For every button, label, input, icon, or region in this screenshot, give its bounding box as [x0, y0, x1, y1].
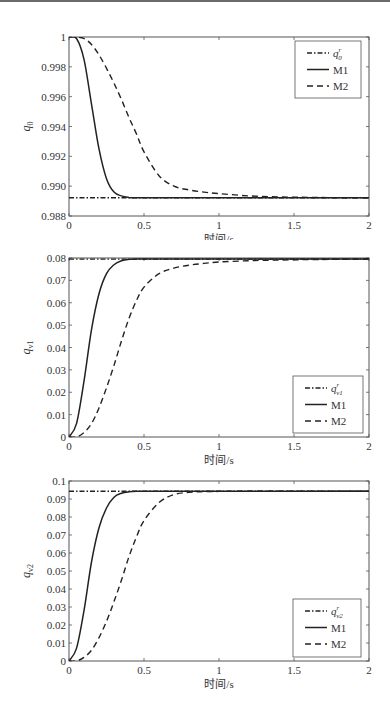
chart-svg: 00.511.5200.010.020.030.040.050.060.070.… [0, 240, 390, 470]
y-tick-label: 0 [61, 655, 67, 667]
y-tick-label: 0.08 [47, 252, 67, 264]
x-tick-label: 1 [216, 440, 222, 452]
x-axis-label: 时间/s [204, 678, 233, 690]
x-tick-label: 0.5 [137, 440, 151, 452]
legend: qrv1M1M2 [293, 376, 363, 433]
legend-label: M2 [333, 80, 348, 92]
y-tick-label: 0.08 [47, 511, 67, 523]
y-tick-label: 0.04 [47, 342, 67, 354]
y-tick-label: 0.04 [47, 583, 67, 595]
x-tick-label: 2 [366, 664, 372, 676]
x-tick-label: 1 [216, 219, 222, 231]
x-tick-label: 1.5 [287, 219, 301, 231]
x-tick-label: 0.5 [137, 219, 151, 231]
legend-label: M2 [331, 638, 346, 650]
y-tick-label: 0.02 [47, 386, 66, 398]
y-tick-label: 0.07 [47, 274, 67, 286]
y-tick-label: 0.01 [47, 409, 66, 421]
y-tick-label: 0.06 [47, 547, 67, 559]
chart-q0: 00.511.520.9880.9900.9920.9940.9960.9981… [0, 0, 390, 240]
y-tick-label: 0.05 [47, 565, 67, 577]
chart-svg: 00.511.520.9880.9900.9920.9940.9960.9981… [0, 0, 390, 240]
y-tick-label: 0.996 [41, 91, 66, 103]
y-tick-label: 0.1 [52, 475, 66, 487]
y-tick-label: 0.990 [41, 180, 66, 192]
x-axis-label: 时间/s [204, 454, 233, 466]
y-tick-label: 0.06 [47, 297, 67, 309]
y-tick-label: 0.05 [47, 319, 67, 331]
y-axis-label: qv1 [19, 341, 35, 355]
chart-qv2: 00.511.5200.010.020.030.040.050.060.070.… [0, 470, 390, 725]
y-tick-label: 0 [61, 431, 67, 443]
y-tick-label: 0.992 [41, 150, 66, 162]
y-axis-label: qv2 [19, 564, 35, 578]
x-tick-label: 2 [366, 219, 372, 231]
y-tick-label: 0.02 [47, 619, 66, 631]
x-tick-label: 1.5 [287, 440, 301, 452]
legend-label: M1 [331, 399, 346, 411]
legend: qrv2M1M2 [293, 599, 361, 657]
x-tick-label: 0 [66, 440, 72, 452]
legend: qr0M1M2 [295, 41, 361, 98]
legend-label: M2 [331, 415, 346, 427]
x-tick-label: 1.5 [287, 664, 301, 676]
x-axis-label: 时间/s [204, 233, 233, 240]
y-tick-label: 0.03 [47, 601, 67, 613]
legend-label: M1 [333, 64, 348, 76]
y-tick-label: 0.09 [47, 493, 67, 505]
y-tick-label: 0.988 [41, 210, 66, 222]
y-tick-label: 0.01 [47, 637, 66, 649]
x-tick-label: 2 [366, 440, 372, 452]
x-tick-label: 1 [216, 664, 222, 676]
y-tick-label: 0.998 [41, 61, 66, 73]
y-tick-label: 0.994 [41, 121, 66, 133]
x-tick-label: 0 [66, 664, 72, 676]
y-tick-label: 0.07 [47, 529, 67, 541]
chart-qv1: 00.511.5200.010.020.030.040.050.060.070.… [0, 240, 390, 470]
chart-svg: 00.511.5200.010.020.030.040.050.060.070.… [0, 470, 390, 725]
legend-label: M1 [331, 622, 346, 634]
y-tick-label: 1 [61, 31, 67, 43]
x-tick-label: 0 [66, 219, 72, 231]
x-tick-label: 0.5 [137, 664, 151, 676]
y-axis-label: q0 [19, 122, 35, 132]
y-tick-label: 0.03 [47, 364, 67, 376]
